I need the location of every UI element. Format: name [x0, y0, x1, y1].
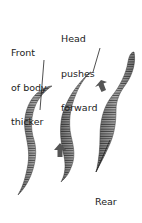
label-head-pushes: Head pushes forward [61, 10, 97, 125]
worm-rear-thicker [96, 52, 135, 172]
label-line: Rear [95, 196, 131, 208]
label-front-of-body: Front of body thicker [11, 24, 47, 139]
label-rear-of-body: Rear of body thicker [95, 173, 131, 223]
label-line: thicker [11, 116, 47, 128]
label-line: forward [61, 102, 97, 114]
label-line: of body [11, 82, 47, 94]
label-line: Front [11, 47, 47, 59]
label-line: pushes [61, 68, 97, 80]
label-line: Head [61, 33, 97, 45]
